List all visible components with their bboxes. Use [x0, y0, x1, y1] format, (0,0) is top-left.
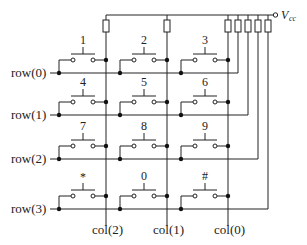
- row-label-3: row(3): [11, 201, 46, 216]
- key-0[interactable]: 0: [118, 169, 169, 211]
- key-hash[interactable]: #: [179, 169, 230, 211]
- col-label-2: col(2): [92, 222, 123, 237]
- svg-text:5: 5: [141, 75, 147, 89]
- keypad-matrix-diagram: V cc row(0): [0, 0, 307, 245]
- col-label-0: col(0): [214, 222, 245, 237]
- svg-text:3: 3: [202, 33, 208, 47]
- svg-text:4: 4: [80, 75, 86, 89]
- key-3[interactable]: 3: [179, 33, 230, 75]
- resistor-icon: [103, 20, 109, 32]
- key-8[interactable]: 8: [118, 119, 169, 161]
- svg-text:7: 7: [80, 119, 86, 133]
- key-1[interactable]: 1: [57, 33, 108, 75]
- row-label-2: row(2): [11, 151, 46, 166]
- svg-text:8: 8: [141, 119, 147, 133]
- svg-text:#: #: [202, 169, 208, 183]
- key-7[interactable]: 7: [57, 119, 108, 161]
- key-6[interactable]: 6: [179, 75, 230, 117]
- row3-pullup: [58, 15, 271, 209]
- vcc-terminal: [273, 13, 277, 17]
- vcc-label: V cc: [281, 8, 297, 23]
- row-label-1: row(1): [11, 107, 46, 122]
- resistor-icon: [255, 20, 261, 32]
- svg-text:1: 1: [80, 33, 86, 47]
- resistor-icon: [245, 20, 251, 32]
- svg-text:cc: cc: [289, 14, 297, 23]
- svg-text:0: 0: [141, 169, 147, 183]
- svg-text:*: *: [80, 170, 86, 184]
- resistor-icon: [235, 20, 241, 32]
- svg-text:9: 9: [202, 119, 208, 133]
- resistor-icon: [265, 20, 271, 32]
- key-4[interactable]: 4: [57, 75, 108, 117]
- row-label-0: row(0): [11, 65, 46, 80]
- key-star[interactable]: *: [57, 170, 108, 211]
- resistor-icon: [164, 20, 170, 32]
- resistor-icon: [225, 20, 231, 32]
- key-2[interactable]: 2: [118, 33, 169, 75]
- svg-text:2: 2: [141, 33, 147, 47]
- key-5[interactable]: 5: [118, 75, 169, 117]
- col-label-1: col(1): [153, 222, 184, 237]
- key-9[interactable]: 9: [179, 119, 230, 161]
- svg-text:6: 6: [202, 75, 208, 89]
- row2-pullup: [58, 15, 261, 159]
